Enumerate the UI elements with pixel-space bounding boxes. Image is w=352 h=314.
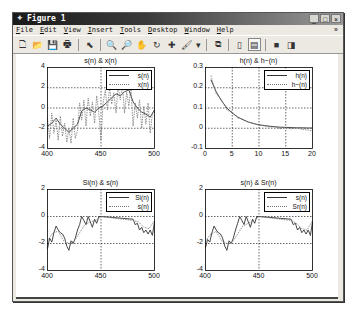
- brush-button[interactable]: 🖌: [180, 38, 193, 51]
- subplot-s-sr[interactable]: s(n) & Sr(n)20-2-4400450500s(n)Sr(n): [193, 179, 338, 282]
- y-tick-label: -0.1: [187, 143, 203, 150]
- floppy-disk-icon: 💾: [47, 40, 58, 50]
- plot-legend[interactable]: h(n)h~(n): [264, 70, 310, 90]
- x-tick-label: 500: [146, 150, 162, 157]
- x-tick-label: 0: [197, 150, 213, 157]
- x-tick-label: 20: [304, 150, 320, 157]
- legend-entry: Sr(n): [265, 202, 309, 211]
- y-tick-label: -2: [29, 123, 45, 130]
- y-tick-label: 2: [29, 184, 45, 191]
- legend-entry: x(n): [107, 80, 151, 89]
- menu-bar: File Edit View Insert Tools Desktop Wind…: [13, 25, 343, 35]
- legend-label: s(n): [290, 194, 307, 201]
- link-plot-button[interactable]: ⧉: [211, 38, 224, 51]
- legend-entry: s(n): [107, 71, 151, 80]
- data-cursor-icon: ✚: [168, 40, 176, 50]
- rotate-icon: ↻: [153, 40, 161, 50]
- matlab-logo-icon: ✦: [16, 14, 25, 23]
- x-tick-label: 500: [146, 272, 162, 279]
- dotted-line-swatch-icon: [267, 84, 287, 85]
- toolbar-separator: [206, 39, 207, 51]
- arrow-pointer-icon: ⬉: [86, 40, 94, 50]
- window-title: Figure 1: [27, 13, 66, 25]
- series-line: [48, 84, 155, 144]
- plot-title: Si(n) & s(n): [47, 179, 154, 186]
- save-figure-button[interactable]: 💾: [46, 38, 59, 51]
- link-plot-icon: ⧉: [215, 39, 221, 50]
- hide-plot-tools-icon: ■: [274, 40, 279, 50]
- figure-canvas: s(n) & x(n)420-2-4400450500s(n)x(n) h(n)…: [16, 54, 338, 299]
- toolbar-separator: [265, 39, 266, 51]
- zoom-out-button[interactable]: 🔎: [120, 38, 133, 51]
- colorbar-icon: ▯: [237, 40, 242, 50]
- brush-dropdown-button[interactable]: ▾: [195, 38, 202, 51]
- print-figure-button[interactable]: 🖶: [61, 38, 74, 51]
- plot-legend[interactable]: Si(n)s(n): [106, 192, 152, 212]
- plot-legend[interactable]: s(n)x(n): [106, 70, 152, 90]
- new-figure-button[interactable]: 🗋: [16, 38, 29, 51]
- show-plot-tools-button[interactable]: ◨: [285, 38, 298, 51]
- legend-entry: h~(n): [265, 80, 309, 89]
- menu-overflow-icon[interactable]: »: [334, 25, 338, 35]
- menu-insert[interactable]: Insert: [88, 25, 113, 35]
- menu-file[interactable]: File: [16, 25, 33, 35]
- chevron-down-icon: ▾: [196, 40, 201, 50]
- x-tick-label: 450: [93, 150, 109, 157]
- solid-line-swatch-icon: [109, 197, 129, 198]
- zoom-in-button[interactable]: 🔍: [105, 38, 118, 51]
- minimize-button[interactable]: _: [309, 14, 319, 23]
- hand-icon: ✋: [136, 40, 147, 50]
- x-tick-label: 450: [251, 272, 267, 279]
- legend-label: Sr(n): [290, 203, 307, 210]
- pan-button[interactable]: ✋: [135, 38, 148, 51]
- open-file-button[interactable]: 📂: [31, 38, 44, 51]
- maximize-button[interactable]: □: [320, 14, 330, 23]
- series-line: [48, 90, 155, 133]
- solid-line-swatch-icon: [109, 75, 129, 76]
- new-file-icon: 🗋: [19, 37, 26, 53]
- menu-window[interactable]: Window: [185, 25, 210, 35]
- menu-help[interactable]: Help: [217, 25, 234, 35]
- toolbar-separator: [228, 39, 229, 51]
- y-tick-label: 4: [29, 62, 45, 69]
- data-cursor-button[interactable]: ✚: [165, 38, 178, 51]
- plot-title: s(n) & Sr(n): [205, 179, 312, 186]
- y-tick-label: 0: [187, 123, 203, 130]
- plot-title: h(n) & h~(n): [205, 57, 312, 64]
- figure-window: ✦ Figure 1 _ □ × File Edit View Insert T…: [12, 12, 344, 302]
- subplot-si-s[interactable]: Si(n) & s(n)20-2-4400450500Si(n)s(n): [35, 179, 180, 282]
- menu-view[interactable]: View: [64, 25, 81, 35]
- insert-colorbar-button[interactable]: ▯: [233, 38, 246, 51]
- legend-label: h~(n): [290, 81, 307, 88]
- subplot-s-x[interactable]: s(n) & x(n)420-2-4400450500s(n)x(n): [35, 57, 180, 160]
- edit-plot-button[interactable]: ⬉: [83, 38, 96, 51]
- plot-legend[interactable]: s(n)Sr(n): [264, 192, 310, 212]
- y-tick-label: 0: [29, 103, 45, 110]
- solid-line-swatch-icon: [267, 75, 287, 76]
- x-tick-label: 500: [304, 272, 320, 279]
- printer-icon: 🖶: [63, 37, 72, 53]
- close-button[interactable]: ×: [331, 14, 341, 23]
- rotate-3d-button[interactable]: ↻: [150, 38, 163, 51]
- y-tick-label: 0.3: [187, 62, 203, 69]
- y-tick-label: 2: [187, 184, 203, 191]
- folder-open-icon: 📂: [32, 40, 43, 50]
- y-tick-label: 0: [187, 211, 203, 218]
- menu-tools[interactable]: Tools: [120, 25, 141, 35]
- x-tick-label: 400: [39, 150, 55, 157]
- plot-title: s(n) & x(n): [47, 57, 154, 64]
- x-tick-label: 15: [277, 150, 293, 157]
- subplot-h-htilde[interactable]: h(n) & h~(n)0.30.20.10-0.105101520h(n)h~…: [193, 57, 338, 160]
- x-tick-label: 450: [93, 272, 109, 279]
- legend-entry: s(n): [107, 202, 151, 211]
- hide-plot-tools-button[interactable]: ■: [270, 38, 283, 51]
- title-bar[interactable]: ✦ Figure 1 _ □ ×: [13, 13, 343, 25]
- dotted-line-swatch-icon: [267, 206, 287, 207]
- menu-desktop[interactable]: Desktop: [148, 25, 178, 35]
- x-tick-label: 400: [197, 272, 213, 279]
- legend-entry: s(n): [265, 193, 309, 202]
- dotted-line-swatch-icon: [109, 84, 129, 85]
- insert-legend-button[interactable]: ▤: [248, 38, 261, 51]
- x-tick-label: 10: [251, 150, 267, 157]
- menu-edit[interactable]: Edit: [40, 25, 57, 35]
